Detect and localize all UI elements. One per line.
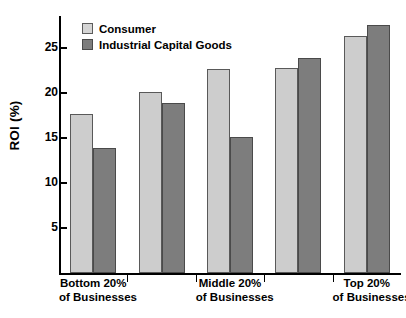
- category-label-line2: of Businesses: [196, 290, 264, 304]
- y-axis-tick-mark: [60, 137, 67, 139]
- bar-consumer: [139, 92, 162, 273]
- y-axis-tick-label: 10: [45, 176, 58, 188]
- y-axis-tick-label: 5: [51, 221, 58, 233]
- legend-swatch-icon: [82, 23, 93, 34]
- bar-industrial: [162, 103, 185, 273]
- legend-label: Industrial Capital Goods: [99, 39, 232, 51]
- x-axis-line: [59, 273, 401, 275]
- y-axis-tick-label: 20: [45, 86, 58, 98]
- y-axis-tick: 10: [19, 177, 67, 189]
- bar-consumer: [207, 69, 230, 273]
- category-label-line1: Top 20%: [344, 277, 390, 289]
- y-axis-tick: 15: [19, 132, 67, 144]
- x-axis-group-separator: [264, 273, 265, 282]
- y-axis-tick: 25: [19, 42, 67, 54]
- legend-item: Industrial Capital Goods: [82, 37, 232, 52]
- category-label-line2: of Businesses: [59, 290, 127, 304]
- y-axis-tick: 5: [19, 222, 67, 234]
- legend-label: Consumer: [99, 23, 156, 35]
- bar-consumer: [70, 114, 93, 273]
- y-axis-line: [59, 16, 61, 275]
- category-label-line2: of Businesses: [333, 290, 401, 304]
- plot-area: 510152025: [59, 16, 401, 275]
- y-axis-tick-label: 15: [45, 131, 58, 143]
- category-label-line1: Middle 20%: [199, 277, 262, 289]
- y-axis-tick-mark: [60, 182, 67, 184]
- bar-industrial: [230, 137, 253, 273]
- y-axis-tick-mark: [60, 92, 67, 94]
- y-axis-tick-mark: [60, 227, 67, 229]
- legend-swatch-icon: [82, 39, 93, 50]
- bar-consumer: [275, 68, 298, 273]
- x-axis-category-label: Bottom 20%of Businesses: [59, 276, 127, 304]
- bar-consumer: [344, 36, 367, 273]
- roi-bar-chart: ROI (%) 510152025 Bottom 20%of Businesse…: [0, 0, 406, 318]
- bar-industrial: [298, 58, 321, 273]
- category-label-line1: Bottom 20%: [60, 277, 126, 289]
- y-axis-tick-mark: [60, 47, 67, 49]
- legend-item: Consumer: [82, 21, 232, 36]
- x-axis-category-label: Middle 20%of Businesses: [196, 276, 264, 304]
- bar-industrial: [367, 25, 390, 273]
- y-axis-tick: 20: [19, 87, 67, 99]
- bar-industrial: [93, 148, 116, 273]
- y-axis-tick-label: 25: [45, 41, 58, 53]
- x-axis-category-label: Top 20%of Businesses: [333, 276, 401, 304]
- chart-legend: ConsumerIndustrial Capital Goods: [82, 21, 232, 53]
- x-axis-group-separator: [127, 273, 128, 282]
